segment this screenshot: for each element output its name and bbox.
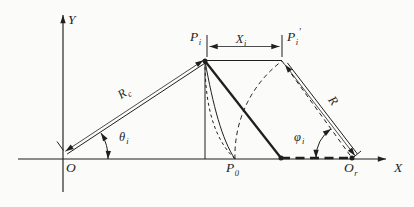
rc-dimension-arrow-line [65, 60, 203, 151]
label-angle-phi: φi [294, 130, 305, 146]
figure-canvas: Y X O Pi Pi′ P0 Or Rc R Xi θi φi [0, 0, 414, 207]
label-origin: O [66, 160, 76, 175]
phi-angle-arc [316, 129, 331, 158]
rc-dimension-outer-line [67, 63, 205, 154]
pi-chord-line [205, 61, 281, 158]
theta-angle-arc [101, 133, 108, 159]
label-x-axis: X [393, 160, 403, 175]
label-dimension-xi: Xi [235, 32, 247, 48]
label-angle-theta: θi [119, 130, 129, 146]
label-point-or: Or [344, 160, 358, 178]
label-point-pi: Pi [189, 29, 202, 47]
pi-prime-to-or-dashed-line [282, 61, 352, 158]
label-dimension-rc: Rc [114, 83, 134, 104]
point-pi-dot [203, 59, 208, 64]
dashed-swing-curve [205, 61, 235, 159]
geometry-diagram: Y X O Pi Pi′ P0 Or Rc R Xi θi φi [0, 0, 414, 207]
label-point-p0: P0 [225, 160, 240, 178]
label-point-pi-prime: Pi′ [286, 27, 302, 47]
label-y-axis: Y [68, 12, 77, 27]
label-dimension-r: R [325, 93, 342, 109]
point-foot-dot [279, 156, 284, 161]
